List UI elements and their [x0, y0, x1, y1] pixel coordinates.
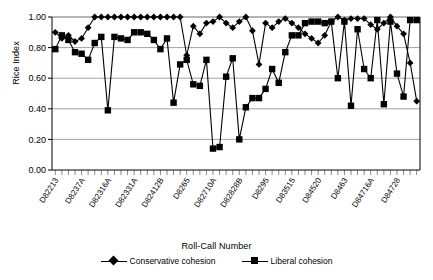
svg-text:0.20: 0.20	[28, 135, 46, 145]
svg-text:D82213: D82213	[38, 176, 61, 205]
legend-label-liberal: Liberal cohesion	[271, 256, 333, 266]
x-axis-tick-labels: D82213D8237AD82316AD82331AD82412BD8265D8…	[38, 176, 403, 209]
svg-text:0.80: 0.80	[28, 43, 46, 53]
svg-text:0.00: 0.00	[28, 165, 46, 175]
svg-text:D84728: D84728	[379, 176, 402, 205]
svg-text:D82316A: D82316A	[87, 176, 113, 209]
x-axis-title: Roll-Call Number	[0, 241, 433, 251]
svg-text:D8265: D8265	[172, 176, 193, 201]
svg-text:D82828B: D82828B	[219, 176, 245, 209]
svg-text:D83515: D83515	[274, 176, 297, 205]
x-axis-ticks	[55, 170, 416, 175]
y-axis-ticks	[48, 17, 52, 170]
square-marker-icon	[242, 256, 268, 266]
gridlines	[52, 17, 420, 139]
svg-text:0.60: 0.60	[28, 73, 46, 83]
series-markers	[52, 14, 420, 152]
legend-entry-liberal: Liberal cohesion	[242, 256, 333, 266]
legend-label-conservative: Conservative cohesion	[130, 256, 216, 266]
svg-text:D84520: D84520	[301, 176, 324, 205]
legend-entry-conservative: Conservative cohesion	[101, 256, 216, 266]
svg-text:D82412B: D82412B	[140, 176, 166, 209]
svg-text:D82710A: D82710A	[192, 176, 218, 209]
svg-text:1.00: 1.00	[28, 12, 46, 22]
svg-text:D82331A: D82331A	[114, 176, 140, 209]
chart-plot-area: 0.000.200.400.600.801.00 D82213D8237AD82…	[0, 0, 433, 280]
y-axis-tick-labels: 0.000.200.400.600.801.00	[28, 12, 46, 175]
svg-text:D8463: D8463	[329, 176, 350, 201]
svg-text:D8237A: D8237A	[63, 176, 87, 206]
y-axis-title: Rice Index	[11, 23, 21, 103]
svg-text:0.40: 0.40	[28, 104, 46, 114]
chart-legend: Conservative cohesion Liberal cohesion	[0, 256, 433, 266]
svg-text:D8295: D8295	[250, 176, 271, 201]
svg-text:D84716A: D84716A	[350, 176, 376, 209]
rice-index-chart: 0.000.200.400.600.801.00 D82213D8237AD82…	[0, 0, 433, 280]
series-lines	[55, 17, 416, 149]
diamond-marker-icon	[101, 256, 127, 266]
